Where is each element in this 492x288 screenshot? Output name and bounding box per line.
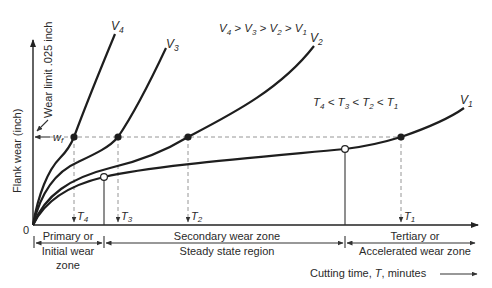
- label-v1: V1: [460, 93, 473, 109]
- t2-marker: [184, 133, 191, 140]
- t1-marker: [397, 133, 404, 140]
- wear-limit-label: Wear limit .025 inch: [42, 22, 54, 118]
- wear-limit-pointer: [37, 120, 48, 131]
- t3-marker: [114, 133, 121, 140]
- wf-label: wf: [53, 131, 64, 145]
- tertiary-zone-line2: Accelerated wear zone: [359, 245, 471, 257]
- tertiary-zone-line1: Tertiary or: [391, 230, 440, 242]
- label-v3: V3: [166, 37, 179, 53]
- speed-relation: V4 > V3 > V2 > V1: [219, 22, 307, 37]
- label-t3: T3: [121, 210, 133, 224]
- label-v2: V2: [310, 31, 323, 47]
- secondary-zone-line1: Secondary wear zone: [174, 230, 280, 242]
- label-t4: T4: [77, 210, 89, 224]
- y-axis-label: Flank wear (inch): [11, 109, 23, 193]
- secondary-zone-line2: Steady state region: [180, 245, 275, 257]
- label-t1: T1: [404, 210, 415, 224]
- label-v4: V4: [111, 19, 124, 35]
- curve-v1: [33, 108, 464, 225]
- tertiary-start-marker: [342, 146, 349, 153]
- primary-zone-line3: zone: [56, 259, 80, 271]
- primary-zone-line2: Initial wear: [42, 245, 95, 257]
- origin-label: 0: [23, 224, 29, 236]
- t4-marker: [70, 133, 77, 140]
- label-t2: T2: [191, 210, 203, 224]
- primary-end-marker: [101, 174, 108, 181]
- tool-wear-diagram: V4 V3 V2 V1 V4 > V3 > V2 > V1 T4 < T3 < …: [0, 0, 492, 288]
- primary-zone-line1: Primary or: [43, 230, 94, 242]
- x-axis-label: Cutting time, T, minutes: [310, 267, 427, 279]
- time-relation: T4 < T3 < T2 < T1: [313, 96, 398, 111]
